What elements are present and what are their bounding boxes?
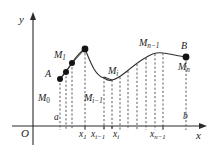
point-label-M1: M1	[54, 50, 66, 62]
y-axis-label: y	[19, 14, 24, 25]
figure-container: y x O A M0 M1 Mi−1 Mi Mn−1 B Mn a x1 xi−…	[0, 0, 218, 157]
point-label-M1-subscript: 1	[62, 54, 66, 62]
tick-label-xi-minus-1-subscript: i−1	[95, 133, 105, 140]
x-axis	[12, 123, 207, 129]
point-label-A: A	[45, 69, 51, 79]
tick-label-xi-subscript: i	[117, 133, 119, 140]
tick-label-x1: x1	[79, 130, 87, 140]
function-curve	[60, 49, 186, 80]
tick-label-xn-minus-1-subscript: n−1	[154, 133, 165, 140]
node-dot-M2	[69, 60, 75, 66]
tick-label-b: b	[183, 112, 188, 122]
origin-label: O	[21, 128, 29, 139]
point-label-Mn: Mn	[178, 62, 190, 74]
figure-canvas	[0, 0, 218, 157]
point-label-B: B	[181, 41, 187, 51]
point-label-Mn-subscript: n	[186, 66, 190, 74]
curve-node-dots	[57, 46, 189, 82]
tick-label-xi: xi	[113, 130, 119, 140]
partition-drop-lines	[60, 49, 186, 130]
node-dot-M1	[63, 69, 69, 75]
x-axis-label: x	[196, 130, 201, 141]
point-label-Mi-subscript: i	[116, 70, 118, 78]
point-label-M0: M0	[38, 93, 50, 105]
point-label-Mi-minus-1: Mi−1	[84, 93, 103, 105]
point-label-Mi: Mi	[108, 66, 118, 78]
y-axis-arrowhead	[30, 12, 36, 20]
point-label-Mn-minus-1-subscript: n−1	[147, 42, 159, 50]
tick-label-xn-minus-1: xn−1	[150, 130, 166, 140]
point-label-Mi-minus-1-subscript: i−1	[92, 97, 102, 105]
node-dot-Mn	[183, 54, 190, 61]
node-dot-M3	[82, 46, 89, 53]
node-dot-M0	[57, 76, 63, 82]
tick-label-a: a	[54, 113, 59, 123]
y-axis	[30, 12, 36, 145]
point-label-Mn-minus-1: Mn−1	[139, 38, 159, 50]
point-label-M0-subscript: 0	[46, 97, 50, 105]
tick-label-xi-minus-1: xi−1	[91, 130, 105, 140]
tick-label-x1-subscript: 1	[83, 133, 86, 140]
